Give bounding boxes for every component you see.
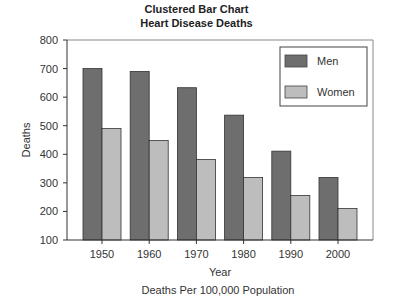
y-tick-label: 600 xyxy=(40,91,58,103)
legend-label-men: Men xyxy=(317,55,338,67)
bar-women-2000 xyxy=(338,209,357,240)
legend: MenWomen xyxy=(280,47,367,106)
x-tick-label: 1980 xyxy=(231,248,255,260)
y-tick-label: 300 xyxy=(40,177,58,189)
x-tick-label: 2000 xyxy=(326,248,350,260)
y-axis-label: Deaths xyxy=(20,122,32,157)
y-tick-label: 700 xyxy=(40,63,58,75)
legend-swatch-women xyxy=(285,86,307,98)
x-axis: 195019601970198019902000 xyxy=(67,240,373,260)
y-tick-label: 200 xyxy=(40,205,58,217)
y-tick-label: 100 xyxy=(40,234,58,246)
bar-women-1990 xyxy=(291,195,310,240)
y-tick-label: 800 xyxy=(40,34,58,46)
x-tick-label: 1960 xyxy=(137,248,161,260)
x-tick-label: 1990 xyxy=(279,248,303,260)
bar-men-2000 xyxy=(319,177,338,240)
bar-men-1990 xyxy=(272,151,291,240)
bar-men-1950 xyxy=(83,69,102,240)
x-tick-label: 1950 xyxy=(90,248,114,260)
chart-canvas: 100200300400500600700800 195019601970198… xyxy=(0,0,393,301)
x-tick-label: 1970 xyxy=(184,248,208,260)
x-axis-label: Year xyxy=(209,266,232,278)
bar-men-1970 xyxy=(177,88,196,240)
bar-men-1980 xyxy=(225,115,244,240)
bar-women-1980 xyxy=(244,177,263,240)
bar-women-1950 xyxy=(102,129,121,240)
legend-swatch-men xyxy=(285,55,307,67)
legend-label-women: Women xyxy=(317,86,355,98)
y-tick-label: 500 xyxy=(40,120,58,132)
y-tick-label: 400 xyxy=(40,148,58,160)
bar-women-1970 xyxy=(196,159,215,240)
y-axis: 100200300400500600700800 xyxy=(40,34,67,246)
chart-caption: Deaths Per 100,000 Population xyxy=(142,284,295,296)
bar-men-1960 xyxy=(130,71,149,240)
bar-women-1960 xyxy=(149,141,168,240)
